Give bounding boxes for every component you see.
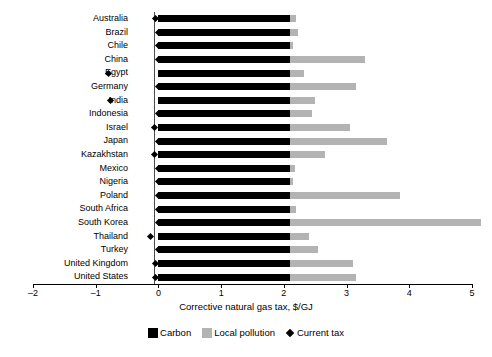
chart-row: India bbox=[0, 94, 492, 108]
category-label-chile: Chile bbox=[10, 39, 128, 53]
x-tick-label-5: 3 bbox=[332, 288, 362, 298]
chart-row: Israel bbox=[0, 121, 492, 135]
bar-carbon bbox=[158, 274, 290, 281]
bar-local-pollution bbox=[290, 83, 356, 90]
x-tick-label-7: 5 bbox=[457, 288, 487, 298]
bar-carbon bbox=[158, 110, 290, 117]
bar-carbon bbox=[158, 56, 290, 63]
diamond-icon bbox=[286, 328, 294, 336]
bar-local-pollution bbox=[290, 192, 400, 199]
bar-carbon bbox=[158, 124, 290, 131]
x-tick-label-6: 4 bbox=[394, 288, 424, 298]
chart-row: United Kingdom bbox=[0, 257, 492, 271]
category-label-thailand: Thailand bbox=[10, 230, 128, 244]
chart-row: Indonesia bbox=[0, 107, 492, 121]
bar-local-pollution bbox=[290, 233, 309, 240]
bar-local-pollution bbox=[290, 219, 481, 226]
x-tick-label-2: 0 bbox=[143, 288, 173, 298]
bar-carbon bbox=[158, 151, 290, 158]
square-swatch-icon bbox=[148, 328, 158, 338]
category-label-poland: Poland bbox=[10, 189, 128, 203]
category-label-mexico: Mexico bbox=[10, 162, 128, 176]
square-swatch-icon bbox=[202, 328, 212, 338]
chart-row: Kazakhstan bbox=[0, 148, 492, 162]
chart-row: Egypt bbox=[0, 66, 492, 80]
bar-local-pollution bbox=[290, 42, 293, 49]
bar-carbon bbox=[158, 165, 290, 172]
x-axis-title: Corrective natural gas tax, $/GJ bbox=[0, 301, 492, 312]
bar-carbon bbox=[158, 42, 290, 49]
category-label-kazakhstan: Kazakhstan bbox=[10, 148, 128, 162]
x-tick-label-1: –1 bbox=[81, 288, 111, 298]
category-label-nigeria: Nigeria bbox=[10, 175, 128, 189]
bar-carbon bbox=[158, 97, 290, 104]
category-label-south-africa: South Africa bbox=[10, 202, 128, 216]
legend-item-current-tax: Current tax bbox=[286, 327, 344, 338]
bar-local-pollution bbox=[290, 178, 293, 185]
category-label-brazil: Brazil bbox=[10, 26, 128, 40]
chart-row: China bbox=[0, 53, 492, 67]
bar-carbon bbox=[158, 233, 290, 240]
bar-local-pollution bbox=[290, 246, 318, 253]
chart-row: United States bbox=[0, 270, 492, 284]
bar-carbon bbox=[158, 138, 290, 145]
bar-local-pollution bbox=[290, 29, 298, 36]
x-tick-label-3: 1 bbox=[206, 288, 236, 298]
category-label-united-kingdom: United Kingdom bbox=[10, 257, 128, 271]
bar-carbon bbox=[158, 15, 290, 22]
legend-label: Carbon bbox=[160, 327, 191, 338]
current-tax-marker bbox=[151, 151, 158, 158]
bar-local-pollution bbox=[290, 97, 315, 104]
bar-local-pollution bbox=[290, 70, 304, 77]
category-label-united-states: United States bbox=[10, 270, 128, 284]
legend-label: Local pollution bbox=[214, 327, 275, 338]
bar-local-pollution bbox=[290, 165, 295, 172]
category-label-turkey: Turkey bbox=[10, 243, 128, 257]
legend-item-carbon: Carbon bbox=[148, 327, 191, 338]
chart-row: Thailand bbox=[0, 230, 492, 244]
chart-row: Brazil bbox=[0, 26, 492, 40]
category-label-israel: Israel bbox=[10, 121, 128, 135]
bar-carbon bbox=[158, 192, 290, 199]
chart-row: Poland bbox=[0, 189, 492, 203]
bar-local-pollution bbox=[290, 206, 296, 213]
chart-row: South Korea bbox=[0, 216, 492, 230]
chart-row: Mexico bbox=[0, 162, 492, 176]
bar-local-pollution bbox=[290, 274, 356, 281]
chart-row: Germany bbox=[0, 80, 492, 94]
x-axis-line bbox=[33, 284, 472, 285]
current-tax-marker bbox=[147, 233, 154, 240]
bar-local-pollution bbox=[290, 260, 353, 267]
bar-local-pollution bbox=[290, 151, 324, 158]
bar-carbon bbox=[158, 219, 290, 226]
bar-local-pollution bbox=[290, 124, 350, 131]
bar-local-pollution bbox=[290, 56, 365, 63]
category-label-japan: Japan bbox=[10, 134, 128, 148]
legend-label: Current tax bbox=[297, 327, 344, 338]
bar-local-pollution bbox=[290, 138, 387, 145]
category-label-germany: Germany bbox=[10, 80, 128, 94]
current-tax-marker bbox=[151, 124, 158, 131]
bar-carbon bbox=[158, 29, 290, 36]
bar-carbon bbox=[158, 260, 290, 267]
legend-item-local-pollution: Local pollution bbox=[202, 327, 275, 338]
x-tick-label-0: –2 bbox=[18, 288, 48, 298]
chart-row: South Africa bbox=[0, 202, 492, 216]
bar-carbon bbox=[158, 246, 290, 253]
chart-row: Nigeria bbox=[0, 175, 492, 189]
bar-carbon bbox=[158, 178, 290, 185]
chart-row: Turkey bbox=[0, 243, 492, 257]
bar-carbon bbox=[158, 206, 290, 213]
chart-row: Australia bbox=[0, 12, 492, 26]
x-tick-label-4: 2 bbox=[269, 288, 299, 298]
chart-row: Chile bbox=[0, 39, 492, 53]
chart-container: AustraliaBrazilChileChinaEgyptGermanyInd… bbox=[0, 0, 492, 357]
category-label-china: China bbox=[10, 53, 128, 67]
bar-local-pollution bbox=[290, 15, 296, 22]
chart-legend: CarbonLocal pollutionCurrent tax bbox=[0, 327, 492, 338]
chart-row: Japan bbox=[0, 134, 492, 148]
bar-carbon bbox=[158, 70, 290, 77]
category-label-south-korea: South Korea bbox=[10, 216, 128, 230]
bar-carbon bbox=[158, 83, 290, 90]
plot-area: AustraliaBrazilChileChinaEgyptGermanyInd… bbox=[33, 12, 472, 284]
